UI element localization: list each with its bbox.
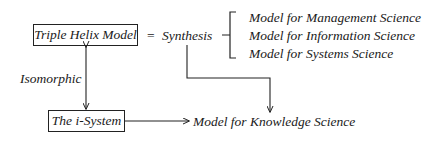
isomorphic-label: Isomorphic bbox=[20, 72, 82, 86]
equals-sign: = bbox=[147, 29, 155, 43]
knowledge-science-model-label: Model for Knowledge Science bbox=[193, 115, 355, 129]
i-system-box: The i-System bbox=[48, 110, 125, 132]
model-information-science: Model for Information Science bbox=[249, 29, 415, 43]
triple-helix-box: Triple Helix Model bbox=[33, 24, 138, 46]
brace-icon bbox=[222, 12, 236, 58]
i-system-label: The i-System bbox=[52, 114, 121, 128]
model-management-science: Model for Management Science bbox=[249, 11, 421, 25]
triple-helix-label: Triple Helix Model bbox=[34, 28, 137, 42]
synthesis-label: Synthesis bbox=[162, 29, 212, 43]
model-systems-science: Model for Systems Science bbox=[249, 47, 393, 61]
